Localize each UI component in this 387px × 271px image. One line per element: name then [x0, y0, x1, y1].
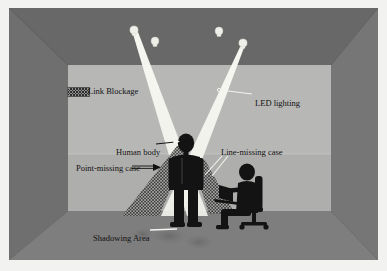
shadow-blob-2	[185, 235, 213, 249]
seated-person-head	[239, 163, 255, 180]
point-missing-case-label: Point-missing case	[76, 164, 140, 173]
shadowing-area-label: Shadowing Area	[93, 234, 149, 243]
led-lighting-label: LED lighting	[255, 99, 300, 108]
seated-person-foot	[216, 225, 229, 229]
line-missing-case-label: Line-missing case	[221, 148, 283, 157]
ceiling-surface	[9, 8, 378, 65]
link-blockage-swatch	[67, 87, 90, 97]
room-surfaces	[9, 8, 378, 260]
human-body-label: Human body	[116, 148, 160, 157]
room-3d-box: Link Blockage LED lighting Human body Li…	[9, 8, 378, 260]
figure-canvas: Link Blockage LED lighting Human body Li…	[0, 0, 387, 271]
link-blockage-label: Link Blockage	[88, 87, 138, 96]
leader-shadowing-area	[150, 229, 177, 230]
